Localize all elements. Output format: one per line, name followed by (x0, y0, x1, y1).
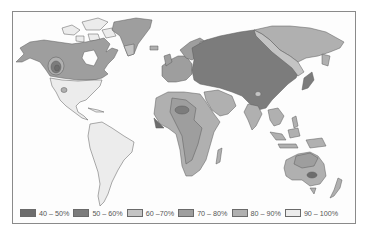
se-asia (268, 108, 284, 126)
legend-item-60-70: 60 –70% (127, 209, 174, 218)
legend-label: 70 – 80% (197, 209, 227, 218)
legend-label: 80 – 90% (251, 209, 281, 218)
madagascar (216, 148, 222, 164)
legend-item-90-100: 90 – 100% (285, 209, 338, 218)
world-map (0, 0, 369, 233)
south-america (88, 122, 134, 206)
legend-label: 50 – 60% (92, 209, 122, 218)
japan (302, 72, 314, 90)
legend-swatch (20, 209, 36, 217)
us-patch (61, 88, 67, 93)
legend-swatch (285, 209, 301, 217)
arctic-islands (62, 18, 116, 42)
legend-item-40-50: 40 – 50% (20, 209, 69, 218)
australia-dark (307, 172, 317, 178)
sahara-50-60 (175, 106, 189, 114)
legend-swatch (73, 209, 89, 217)
legend-label: 40 – 50% (39, 209, 69, 218)
usa-mexico (50, 78, 102, 120)
legend: 40 – 50% 50 – 60% 60 –70% 70 – 80% 80 – … (20, 207, 338, 219)
north-america-north (16, 38, 118, 80)
new-zealand (330, 178, 342, 198)
legend-swatch (127, 209, 143, 217)
legend-swatch (232, 209, 248, 217)
legend-swatch (178, 209, 194, 217)
legend-item-70-80: 70 – 80% (178, 209, 227, 218)
legend-label: 60 –70% (146, 209, 174, 218)
legend-item-50-60: 50 – 60% (73, 209, 122, 218)
legend-label: 90 – 100% (304, 209, 338, 218)
legend-item-80-90: 80 – 90% (232, 209, 281, 218)
rockies-40-50 (55, 65, 60, 71)
